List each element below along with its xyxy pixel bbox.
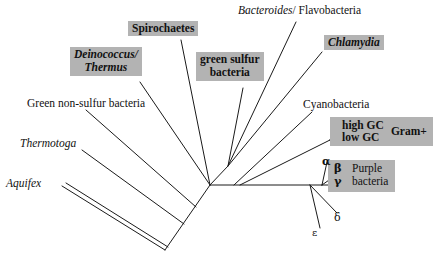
branch-internal-cluster [210, 166, 228, 185]
label-aquifex: Aquifex [6, 177, 41, 189]
branch-aquifex-pair [66, 183, 168, 247]
branch-thermotoga [82, 150, 184, 224]
label-alpha: α [322, 155, 330, 168]
label-flavobacteria: / Flavobacteria [293, 4, 362, 16]
label-high-gc: high GC [342, 119, 384, 131]
label-gamma: γ [334, 175, 347, 188]
label-green-sulfur-line2: bacteria [200, 66, 260, 79]
purple-bacteria-name: Purple bacteria [347, 162, 388, 188]
label-deinococcus-box: Deinococcus/ Thermus [70, 47, 142, 76]
label-spirochaetes: Spirochaetes [128, 22, 198, 34]
label-epsilon: ε [312, 227, 317, 238]
label-delta: δ [334, 211, 341, 224]
label-chlamydia-text: Chlamydia [324, 35, 384, 50]
branch-epsilon [310, 185, 320, 228]
branch-cyanobacteria [234, 112, 312, 185]
branch-green-sulfur [228, 88, 243, 166]
branch-aquifex [62, 186, 165, 250]
label-purple-line2: bacteria [352, 175, 388, 188]
label-deinococcus-thermus: Deinococcus/ Thermus [70, 47, 142, 76]
label-green-sulfur-line1: green sulfur [200, 53, 260, 66]
label-chlamydia: Chlamydia [324, 36, 384, 48]
label-gram-positive-group: high GC low GC Gram+ [330, 117, 433, 146]
purple-greek-stack: β γ [334, 162, 347, 188]
label-deinococcus-line1: Deinococcus/ [74, 48, 138, 61]
label-beta: β [334, 162, 347, 175]
branch-deep-spine [165, 185, 210, 250]
label-green-sulfur-box: green sulfur bacteria [196, 52, 264, 81]
label-low-gc: low GC [342, 131, 384, 143]
purple-bacteria-box: β γ Purple bacteria [328, 160, 395, 192]
label-deinococcus-line2: Thermus [74, 61, 138, 74]
label-bacteroides-flavobacteria: Bacteroides/ Flavobacteria [238, 4, 361, 16]
label-bacteroides-genus: Bacteroides [238, 4, 293, 16]
label-thermotoga: Thermotoga [20, 137, 76, 149]
branch-gram-positive [240, 140, 330, 185]
label-green-non-sulfur-bacteria: Green non-sulfur bacteria [27, 97, 145, 109]
gram-gc-stack: high GC low GC [342, 119, 384, 143]
label-purple-line1: Purple [352, 162, 388, 175]
label-purple-bacteria-group: β γ Purple bacteria [328, 160, 395, 192]
label-green-sulfur-bacteria: green sulfur bacteria [196, 52, 264, 81]
label-gram-plus: Gram+ [384, 125, 427, 137]
branch-bacteroides-flavobacteria [228, 22, 296, 166]
gram-positive-box: high GC low GC Gram+ [330, 117, 433, 146]
label-spirochaetes-text: Spirochaetes [128, 21, 198, 36]
phylogenetic-tree-figure: Bacteroides/ Flavobacteria Spirochaetes … [0, 0, 437, 261]
label-cyanobacteria: Cyanobacteria [303, 98, 369, 110]
